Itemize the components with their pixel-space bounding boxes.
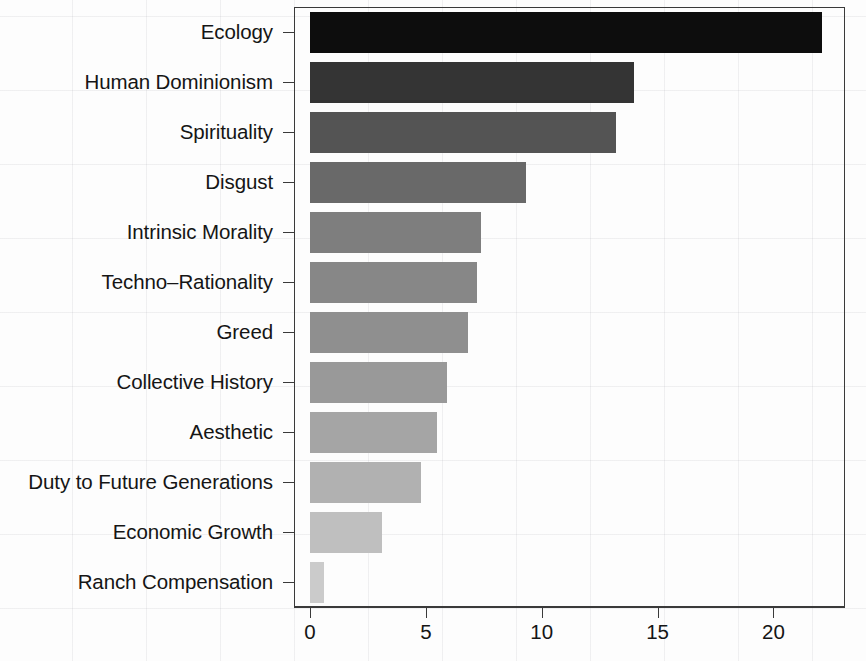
y-axis-tick [283, 332, 294, 333]
y-axis-labels: EcologyHuman DominionismSpiritualityDisg… [0, 7, 283, 607]
x-axis-tick-label: 15 [646, 622, 669, 643]
bar-techno-rationality [310, 262, 477, 303]
x-axis-tick-label: 0 [304, 622, 315, 643]
bar-greed [310, 312, 468, 353]
x-axis-tick [426, 607, 427, 618]
x-axis-tick [773, 607, 774, 618]
y-axis-tick [283, 282, 294, 283]
x-axis-tick [310, 607, 311, 618]
y-axis-tick-label: Collective History [0, 372, 283, 393]
y-axis-tick-label: Techno–Rationality [0, 272, 283, 293]
y-axis-tick [283, 382, 294, 383]
bar-intrinsic-morality [310, 212, 481, 253]
x-axis-tick [658, 607, 659, 618]
bars-layer [294, 7, 845, 607]
bar-economic-growth [310, 512, 382, 553]
y-axis-tick [283, 232, 294, 233]
y-axis-tick [283, 482, 294, 483]
bar-chart-figure: EcologyHuman DominionismSpiritualityDisg… [0, 0, 866, 661]
bar-human-dominionism [310, 62, 634, 103]
bar-duty-to-future-generations [310, 462, 421, 503]
x-axis: 05101520 [294, 607, 845, 661]
bar-collective-history [310, 362, 447, 403]
y-axis-tick-label: Aesthetic [0, 422, 283, 443]
bar-spirituality [310, 112, 616, 153]
y-axis-tick-label: Intrinsic Morality [0, 222, 283, 243]
x-axis-tick [542, 607, 543, 618]
bar-ranch-compensation [310, 562, 324, 603]
bar-disgust [310, 162, 526, 203]
y-axis-tick [283, 582, 294, 583]
bar-aesthetic [310, 412, 437, 453]
y-axis-tick [283, 182, 294, 183]
y-axis-tick-label: Disgust [0, 172, 283, 193]
x-axis-tick-label: 10 [530, 622, 553, 643]
y-axis-tick [283, 432, 294, 433]
y-axis-tick-label: Ecology [0, 22, 283, 43]
y-axis-tick-label: Greed [0, 322, 283, 343]
y-axis-tick-label: Human Dominionism [0, 72, 283, 93]
y-axis-tick-label: Ranch Compensation [0, 572, 283, 593]
x-axis-tick-label: 20 [762, 622, 785, 643]
y-axis-tick [283, 32, 294, 33]
bar-ecology [310, 12, 822, 53]
y-axis-tick-label: Spirituality [0, 122, 283, 143]
y-axis-tick [283, 132, 294, 133]
y-axis-tick-label: Duty to Future Generations [0, 472, 283, 493]
y-axis-tick [283, 82, 294, 83]
y-axis-tick-label: Economic Growth [0, 522, 283, 543]
y-axis-tick [283, 532, 294, 533]
x-axis-tick-label: 5 [420, 622, 431, 643]
